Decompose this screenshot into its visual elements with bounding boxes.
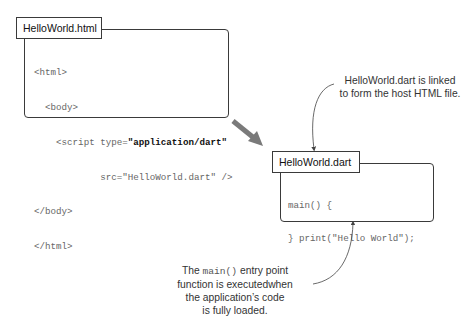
main-curve-arrow-icon [313, 223, 353, 284]
link-curve-arrow-icon [313, 84, 334, 149]
big-arrow-icon [233, 121, 263, 146]
arrows-layer [0, 0, 471, 328]
